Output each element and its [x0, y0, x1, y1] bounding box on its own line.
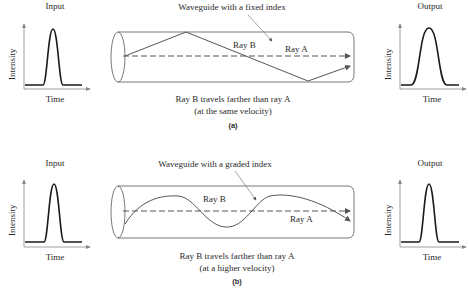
leader-line [248, 15, 272, 41]
input-plot-a [24, 24, 90, 89]
caption-b-line2: (at a higher velocity) [199, 264, 274, 273]
sub-label-b: (b) [232, 278, 242, 286]
output-plot-b [400, 180, 466, 247]
y-label-output-b: Intensity [384, 205, 393, 237]
waveguide-left-end [111, 32, 125, 82]
x-label-input-a: Time [46, 95, 65, 104]
ray-a-label-b: Ray A [290, 215, 313, 224]
output-title-b: Output [417, 159, 442, 168]
y-label-input-b: Intensity [8, 205, 17, 237]
caption-a-line1: Ray B travels farther than ray A [176, 95, 291, 104]
y-label-input-a: Intensity [8, 49, 17, 81]
input-title-b: Input [46, 159, 65, 168]
output-plot-a [400, 24, 466, 89]
waveguide-right-end [348, 32, 354, 82]
output-title-a: Output [417, 2, 442, 11]
x-label-output-a: Time [423, 95, 442, 104]
input-title-a: Input [46, 2, 65, 11]
leader-line [235, 171, 256, 200]
waveguide-b [111, 171, 354, 238]
input-pulse-a [25, 29, 82, 85]
waveguide-left-end [111, 186, 125, 238]
caption-a-line2: (at the same velocity) [194, 107, 272, 116]
x-label-input-b: Time [46, 253, 65, 262]
caption-b-line1: Ray B travels farther than ray A [180, 252, 295, 261]
sub-label-a: (a) [228, 122, 237, 130]
input-plot-b [24, 180, 90, 247]
ray-b-label-a: Ray B [233, 41, 256, 50]
waveguide-label-b: Waveguide with a graded index [158, 160, 272, 169]
output-pulse-b [401, 184, 459, 242]
output-pulse-a [401, 28, 459, 85]
waveguide-label-a: Waveguide with a fixed index [178, 3, 286, 12]
waveguide-right-end [348, 186, 354, 238]
x-label-output-b: Time [423, 253, 442, 262]
input-pulse-b [25, 184, 82, 242]
ray-b-label-b: Ray B [203, 195, 226, 204]
ray-a-label-a: Ray A [285, 45, 308, 54]
y-label-output-a: Intensity [384, 49, 393, 81]
